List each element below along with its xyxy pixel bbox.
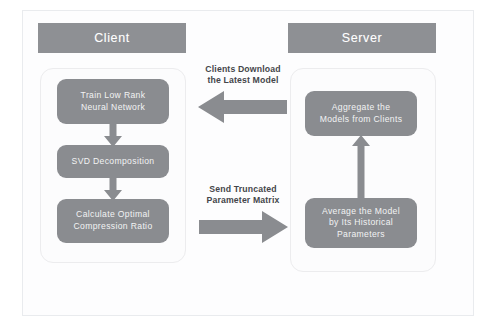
diagram-root: Client Train Low Rank Neural Network SVD… (0, 0, 496, 336)
node-aggregate-label: Aggregate the Models from Clients (320, 102, 403, 125)
arrow-right-icon (198, 210, 288, 244)
transfer-download-caption: Clients Download the Latest Model (190, 64, 296, 86)
node-svd-label: SVD Decomposition (72, 156, 155, 168)
node-svd-decomposition: SVD Decomposition (57, 145, 169, 178)
node-train-low-rank-neural-network: Train Low Rank Neural Network (57, 79, 169, 124)
client-header-bar: Client (38, 23, 186, 53)
server-header-bar: Server (288, 23, 436, 53)
transfer-upload-caption: Send Truncated Parameter Matrix (190, 184, 296, 206)
node-aggregate-models-from-clients: Aggregate the Models from Clients (305, 91, 417, 136)
transfer-send-truncated-parameter-matrix: Send Truncated Parameter Matrix (190, 184, 296, 244)
node-average-model-by-historical-parameters: Average the Model by Its Historical Para… (305, 198, 417, 248)
node-train-label: Train Low Rank Neural Network (81, 90, 146, 113)
node-compression-label: Calculate Optimal Compression Ratio (73, 209, 152, 232)
server-header-label: Server (342, 31, 382, 45)
transfer-clients-download-latest-model: Clients Download the Latest Model (190, 64, 296, 124)
node-calculate-optimal-compression-ratio: Calculate Optimal Compression Ratio (57, 199, 169, 243)
node-average-label: Average the Model by Its Historical Para… (322, 206, 400, 241)
client-header-label: Client (94, 31, 130, 45)
connector-average-to-aggregate-arrow (348, 134, 374, 200)
arrow-left-icon (198, 90, 288, 124)
